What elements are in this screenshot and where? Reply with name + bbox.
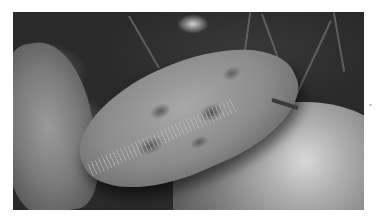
edge-artifact xyxy=(369,104,372,106)
seaweed-strand xyxy=(128,16,160,69)
seaweed-strand xyxy=(333,12,345,71)
abalone-photo xyxy=(13,12,364,210)
seaweed-strand xyxy=(296,20,332,93)
